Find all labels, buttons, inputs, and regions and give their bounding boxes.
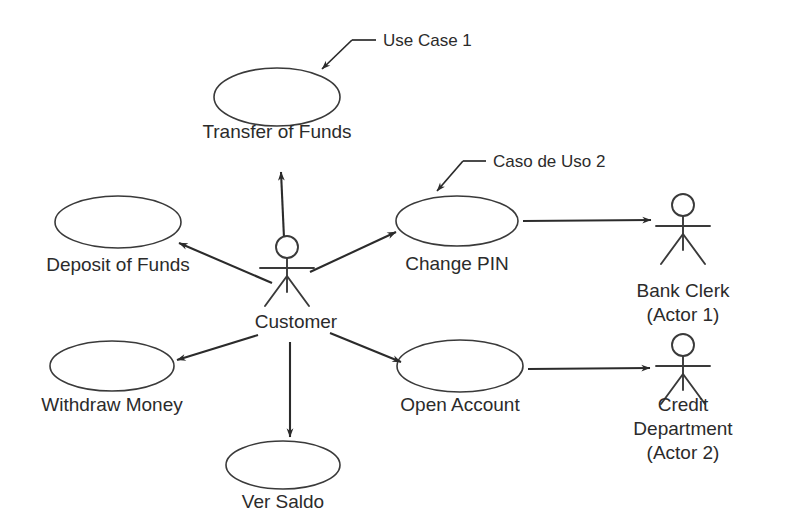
annotation-label: Use Case 1 [383,31,472,50]
actor-label-line: Bank Clerk [637,280,730,301]
use-case-transfer-of-funds[interactable]: Transfer of Funds [202,68,351,142]
use-case-open-account[interactable]: Open Account [397,340,523,415]
use-case-ellipse[interactable] [396,196,518,246]
use-case-withdraw-money[interactable]: Withdraw Money [41,341,183,415]
actor-label-line: Customer [255,311,338,332]
use-case-ellipse[interactable] [214,68,340,126]
diagram-canvas: Transfer of FundsDeposit of FundsChange … [0,0,787,521]
annotation-use-case-1: Use Case 1 [322,31,472,69]
uml-use-case-diagram: Transfer of FundsDeposit of FundsChange … [0,0,787,521]
actor-bank-clerk[interactable]: Bank Clerk(Actor 1) [637,194,730,325]
actor-credit-department[interactable]: CreditDepartment(Actor 2) [633,334,733,463]
use-case-label: Transfer of Funds [202,121,351,142]
association-customer-to-change-pin [310,232,396,272]
association-change-pin-to-bank-clerk [523,220,651,221]
actor-leg-right-icon [287,276,309,306]
annotation-leader-arrow [322,40,352,69]
use-case-label: Open Account [400,394,520,415]
actor-head-icon [276,236,298,258]
use-case-label: Ver Saldo [242,491,324,512]
actor-leg-left-icon [661,234,683,264]
use-case-label: Withdraw Money [41,394,183,415]
annotation-label: Caso de Uso 2 [493,152,605,171]
association-customer-to-deposit [179,243,272,283]
annotation-leader-arrow [437,161,463,191]
actor-label-line: (Actor 1) [647,304,720,325]
annotation-layer: Use Case 1Caso de Uso 2 [322,31,605,191]
association-open-account-to-credit [528,368,650,369]
use-case-ellipse[interactable] [226,441,340,489]
use-case-change-pin[interactable]: Change PIN [396,196,518,274]
use-case-label: Deposit of Funds [46,254,190,275]
actor-head-icon [672,334,694,356]
actor-label-line: (Actor 2) [647,442,720,463]
association-customer-to-open-account [330,333,401,362]
association-customer-to-withdraw [177,335,258,360]
actor-customer[interactable]: Customer [255,236,338,332]
use-case-label: Change PIN [405,253,509,274]
annotation-caso-de-uso-2: Caso de Uso 2 [437,152,605,191]
association-customer-to-transfer [281,172,284,238]
use-case-ellipse[interactable] [397,340,523,392]
actor-leg-right-icon [683,234,705,264]
actor-head-icon [672,194,694,216]
use-case-ver-saldo[interactable]: Ver Saldo [226,441,340,512]
use-case-ellipse[interactable] [55,196,181,248]
use-case-deposit-of-funds[interactable]: Deposit of Funds [46,196,190,275]
use-case-ellipse[interactable] [50,341,174,391]
use-case-layer: Transfer of FundsDeposit of FundsChange … [41,68,523,512]
actor-label-line: Department [633,418,733,439]
actor-label-line: Credit [658,394,709,415]
